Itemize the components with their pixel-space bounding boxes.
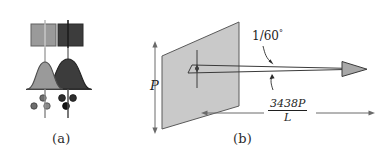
detector-dot <box>59 95 66 102</box>
angle-label: 1/60° <box>252 28 283 43</box>
caption-a: (a) <box>52 131 71 146</box>
pupil-label: P <box>150 78 159 93</box>
light-square <box>31 24 56 46</box>
formula-numerator: 3438P <box>268 98 307 111</box>
dark-square <box>58 24 83 46</box>
angle-value: 1/60 <box>252 29 279 43</box>
panel-a <box>26 20 92 118</box>
distance-formula: 3438P L <box>268 98 307 123</box>
detector-dot <box>31 103 37 109</box>
angle-pointer-lines <box>263 46 275 90</box>
degree-symbol: ° <box>279 28 283 37</box>
detector-dot <box>70 95 77 102</box>
formula-denominator: L <box>268 111 307 123</box>
caption-b: (b) <box>233 131 252 146</box>
ray-arrowhead <box>342 62 367 77</box>
